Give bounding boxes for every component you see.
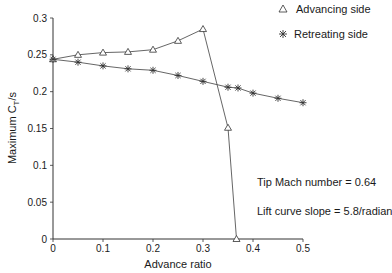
y-tick-label: 0.1 xyxy=(33,160,47,171)
legend-item-retreating: Retreating side xyxy=(279,28,368,40)
asterisk-marker-icon xyxy=(250,90,257,97)
asterisk-marker-icon xyxy=(279,30,287,38)
triangle-marker-icon xyxy=(175,37,182,43)
series-advancing-side xyxy=(50,26,241,242)
y-tick-label: 0 xyxy=(41,234,47,245)
x-tick-label: 0.4 xyxy=(246,243,260,254)
annotation-tip-mach: Tip Mach number = 0.64 xyxy=(257,176,376,188)
triangle-marker-icon xyxy=(279,5,287,12)
y-tick-label: 0.15 xyxy=(28,123,48,134)
legend-label-retreating: Retreating side xyxy=(294,28,368,40)
line-chart: 00.10.20.30.40.500.050.10.150.20.250.3 A… xyxy=(0,0,392,273)
x-tick-label: 0.1 xyxy=(96,243,110,254)
x-axis-title: Advance ratio xyxy=(144,258,211,270)
asterisk-marker-icon xyxy=(200,78,207,85)
y-tick-label: 0.3 xyxy=(33,13,47,24)
series-retreating-side xyxy=(50,56,307,106)
asterisk-marker-icon xyxy=(125,65,132,72)
asterisk-marker-icon xyxy=(150,67,157,74)
axes: 00.10.20.30.40.500.050.10.150.20.250.3 xyxy=(28,13,311,255)
x-tick-label: 0 xyxy=(50,243,56,254)
legend-label-advancing: Advancing side xyxy=(296,3,371,15)
asterisk-marker-icon xyxy=(275,95,282,102)
asterisk-marker-icon xyxy=(235,84,242,91)
asterisk-marker-icon xyxy=(225,84,232,91)
series-line xyxy=(53,29,237,239)
triangle-marker-icon xyxy=(225,124,232,130)
x-tick-label: 0.2 xyxy=(146,243,160,254)
asterisk-marker-icon xyxy=(50,56,57,63)
asterisk-marker-icon xyxy=(100,62,107,69)
annotation-lift-slope: Lift curve slope = 5.8/radian xyxy=(257,205,392,217)
x-tick-label: 0.3 xyxy=(196,243,210,254)
asterisk-marker-icon xyxy=(75,59,82,66)
y-tick-label: 0.2 xyxy=(33,86,47,97)
legend-item-advancing: Advancing side xyxy=(279,3,371,15)
y-tick-label: 0.25 xyxy=(28,49,48,60)
asterisk-marker-icon xyxy=(300,99,307,106)
triangle-marker-icon xyxy=(200,26,207,32)
series-line xyxy=(53,59,303,102)
asterisk-marker-icon xyxy=(175,72,182,79)
y-tick-label: 0.05 xyxy=(28,197,48,208)
legend: Advancing side Retreating side xyxy=(279,3,371,40)
x-tick-label: 0.5 xyxy=(296,243,310,254)
y-axis-title: Maximum CT/s xyxy=(6,91,21,164)
